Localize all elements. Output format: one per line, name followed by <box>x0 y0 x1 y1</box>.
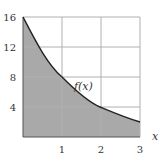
x-tick-3: 3 <box>137 144 143 155</box>
chart: 16 12 8 4 1 2 3 x f(x) <box>0 0 164 161</box>
y-tick-16: 16 <box>3 12 16 23</box>
function-label: f(x) <box>73 80 93 93</box>
y-tick-12: 12 <box>3 42 16 53</box>
y-tick-8: 8 <box>10 72 16 83</box>
y-tick-4: 4 <box>10 102 16 113</box>
x-tick-1: 1 <box>59 144 65 155</box>
x-tick-2: 2 <box>98 144 104 155</box>
x-axis-label: x <box>152 130 159 143</box>
